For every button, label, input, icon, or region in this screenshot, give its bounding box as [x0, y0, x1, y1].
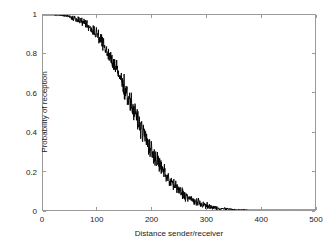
x-tick-label: 300: [200, 215, 213, 224]
y-tick-label: 0.4: [10, 128, 37, 137]
x-tick-mark: [96, 207, 97, 210]
x-tick-mark: [261, 207, 262, 210]
x-tick-label: 0: [40, 215, 44, 224]
y-tick-mark: [312, 132, 315, 133]
x-tick-mark: [96, 15, 97, 18]
x-tick-mark: [151, 207, 152, 210]
y-tick-label: 0.2: [10, 167, 37, 176]
x-tick-mark: [42, 207, 43, 210]
x-tick-mark: [316, 207, 317, 210]
x-tick-label: 200: [145, 215, 158, 224]
y-tick-label: 0.6: [10, 88, 37, 97]
y-axis-title: Probability of reception: [40, 71, 49, 152]
y-tick-mark: [312, 211, 315, 212]
y-tick-mark: [43, 14, 46, 15]
x-tick-mark: [261, 15, 262, 18]
y-tick-label: 0.8: [10, 49, 37, 58]
figure-canvas: 00.20.40.60.81 0100200300400500 Distance…: [0, 0, 334, 246]
series-line-probability-of-reception: [43, 15, 315, 210]
y-tick-label: 1: [10, 10, 37, 19]
y-tick-mark: [43, 211, 46, 212]
x-tick-mark: [316, 15, 317, 18]
x-tick-label: 100: [90, 215, 103, 224]
x-tick-mark: [151, 15, 152, 18]
plot-area: [42, 14, 316, 211]
y-tick-label: 0: [10, 207, 37, 216]
x-tick-label: 400: [255, 215, 268, 224]
x-tick-label: 500: [309, 215, 322, 224]
x-tick-mark: [206, 207, 207, 210]
y-tick-mark: [312, 53, 315, 54]
x-tick-mark: [206, 15, 207, 18]
y-tick-mark: [312, 171, 315, 172]
y-tick-mark: [43, 171, 46, 172]
y-tick-mark: [43, 53, 46, 54]
x-tick-mark: [42, 15, 43, 18]
y-tick-mark: [312, 92, 315, 93]
x-axis-title: Distance sender/receiver: [42, 229, 316, 238]
data-series-svg: [43, 15, 315, 210]
